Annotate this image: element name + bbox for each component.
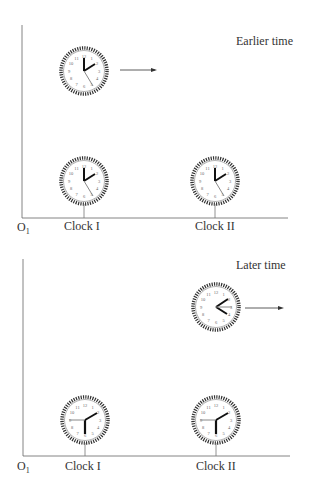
origin-subscript: 1 [26,227,30,236]
origin-subscript: 1 [26,466,30,475]
clock-2-label-bottom: Clock II [196,459,236,474]
origin-label-top: O1 [17,220,30,236]
earlier-time-title: Earlier time [236,34,293,49]
origin-label-bottom: O1 [17,459,30,475]
clock-1-label-bottom: Clock I [65,459,101,474]
later-time-title: Later time [236,258,286,273]
origin-letter: O [17,459,26,473]
clock-diagram: 1212 345 678 91011 [0,0,311,490]
clock-1-label-top: Clock I [64,219,100,234]
earlier-time-panel [22,25,288,218]
clock-2-label-top: Clock II [195,219,235,234]
clock-2 [192,158,238,204]
origin-letter: O [17,220,26,234]
later-time-panel [23,259,290,456]
moving-clock [61,48,107,94]
clock-1 [61,158,107,204]
